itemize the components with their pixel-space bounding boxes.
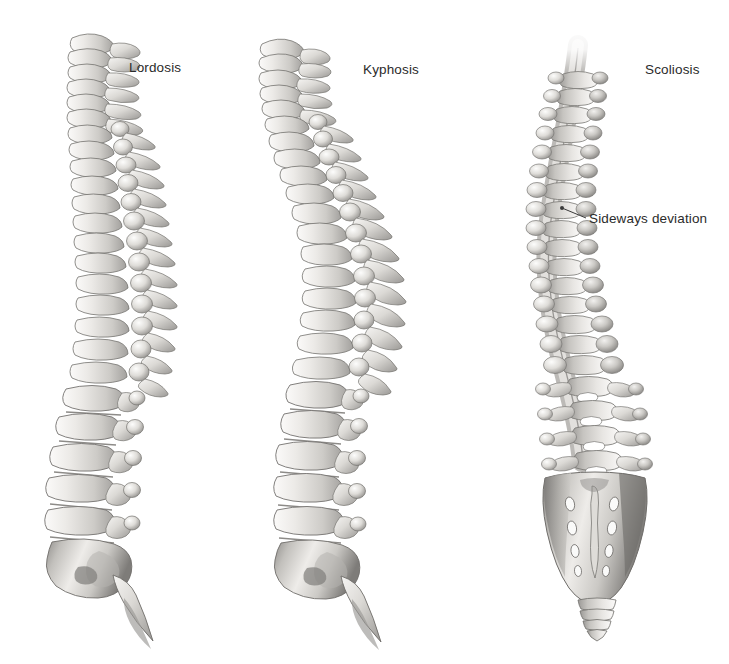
spine-illustration-figure: Lordosis Kyphosis Scoliosis Sideways dev… [0,0,729,664]
scoliosis-lower-thoracic [536,316,624,375]
label-sideways-deviation: Sideways deviation [589,211,707,226]
label-scoliosis: Scoliosis [645,62,700,77]
spine-illustration-svg [0,0,729,664]
label-kyphosis: Kyphosis [363,62,419,77]
label-lordosis: Lordosis [129,60,181,75]
top-fade-overlay [520,22,640,72]
